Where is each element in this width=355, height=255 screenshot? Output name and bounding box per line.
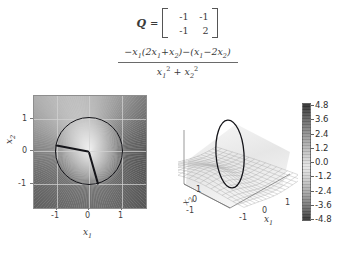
surface-mesh-image — [178, 112, 298, 222]
xtick-label-minus1: -1 — [51, 211, 59, 220]
ylabel-sub: 2 — [9, 135, 17, 139]
plot3d-ytick-plus1: 1 — [196, 185, 201, 194]
colorbar-tick-label-1: 3.6 — [315, 115, 329, 124]
xtick-label-zero: 0 — [85, 211, 90, 220]
ytick-label-minus1: -1 — [18, 179, 26, 188]
colorbar-tick-mark-2 — [311, 134, 314, 135]
matrix-definition: Q = -1 -1 -1 2 — [0, 8, 355, 38]
tick-x-zero — [88, 207, 89, 210]
fraction-numerator: −x1(2x1+x2)−(x1−2x2) — [120, 46, 234, 60]
rayleigh-fraction: −x1(2x1+x2)−(x1−2x2) x12 + x22 — [0, 46, 355, 80]
plot3d-xtick-plus1: 1 — [285, 198, 290, 207]
equation-block: Q = -1 -1 -1 2 −x1(2x1+x2)−(x1−2x2) x12 … — [0, 2, 355, 88]
fraction-bar — [118, 62, 238, 63]
matrix-symbol-q: Q — [137, 17, 147, 30]
tick-y-plus1 — [30, 118, 33, 119]
figure-root: Q = -1 -1 -1 2 −x1(2x1+x2)−(x1−2x2) x12 … — [0, 0, 355, 255]
matrix-cell-r2c2: 2 — [190, 25, 210, 36]
colorbar-tick-mark-4 — [311, 162, 314, 163]
colorbar-tick-mark-0 — [311, 105, 314, 106]
x3d-label-sub: 1 — [269, 219, 273, 227]
colorbar-tick-mark-6 — [311, 191, 314, 192]
plot-2d-ylabel: x2 — [4, 135, 17, 144]
matrix-cell-r1c2: -1 — [190, 11, 210, 22]
matrix-cells: -1 -1 -1 2 — [168, 8, 212, 38]
xtick-label-plus1: 1 — [118, 211, 123, 220]
plot3d-xtick-minus1: -1 — [239, 213, 247, 222]
colorbar-tick-label-0: 4.8 — [315, 101, 329, 110]
matrix-cell-r2c1: -1 — [170, 25, 190, 36]
colorbar-tick-mark-7 — [311, 205, 314, 206]
den-plus: + — [174, 66, 182, 77]
ytick-label-plus1: 1 — [22, 114, 27, 123]
colorbar: 4.83.62.41.20.0-1.2-2.4-3.6-4.8 — [302, 103, 354, 223]
den-x1-sub: 1 — [162, 72, 166, 80]
ylabel-base: x — [4, 139, 14, 144]
plot-3d-xlabel: x1 — [264, 214, 273, 227]
tick-x-plus1 — [121, 207, 122, 210]
ytick-label-zero: 0 — [22, 146, 27, 155]
plot-2d-xlabel: x1 — [83, 227, 92, 240]
num-close2: ) — [227, 46, 231, 57]
num-minus2: −( — [182, 46, 194, 57]
colorbar-tick-label-2: 2.4 — [315, 130, 329, 139]
plot-2d-heatmap — [33, 95, 147, 209]
colorbar-tick-label-3: 1.2 — [315, 144, 329, 153]
colorbar-tick-label-4: 0.0 — [315, 158, 329, 167]
colorbar-gradient — [302, 103, 311, 221]
colorbar-tick-label-7: -3.6 — [315, 201, 332, 210]
equals-sign: = — [150, 18, 158, 29]
colorbar-tick-mark-3 — [311, 148, 314, 149]
colorbar-tick-mark-1 — [311, 119, 314, 120]
matrix-bracket-group: -1 -1 -1 2 — [162, 8, 218, 38]
colorbar-tick-mark-5 — [311, 176, 314, 177]
tick-x-minus1 — [56, 207, 57, 210]
num-open: (2 — [142, 46, 152, 57]
colorbar-tick-label-8: -4.8 — [315, 215, 332, 224]
den-x1-sup: 2 — [166, 65, 170, 73]
colorbar-tick-mark-8 — [311, 219, 314, 220]
colorbar-tick-label-6: -2.4 — [315, 187, 332, 196]
num-minus3: −2 — [203, 46, 217, 57]
bracket-right-icon — [212, 8, 218, 38]
matrix-cell-r1c1: -1 — [170, 11, 190, 22]
fraction-denominator: x12 + x22 — [157, 65, 198, 80]
xlabel-sub: 1 — [88, 232, 92, 240]
colorbar-tick-label-5: -1.2 — [315, 172, 332, 181]
tick-y-minus1 — [30, 183, 33, 184]
tick-y-zero — [30, 150, 33, 151]
plot-3d-surface — [178, 112, 298, 222]
num-plus: + — [161, 46, 169, 57]
den-x2-sup: 2 — [194, 65, 198, 73]
den-x2-sub: 2 — [190, 72, 194, 80]
